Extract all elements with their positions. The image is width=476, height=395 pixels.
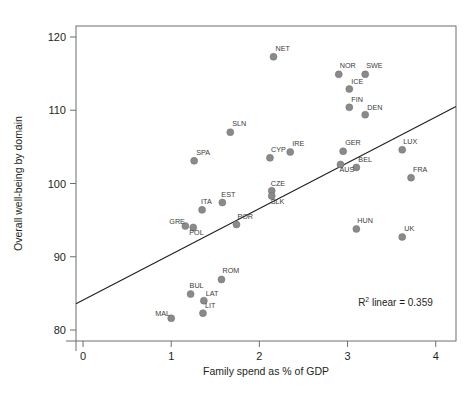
y-tick-label-110: 110 bbox=[48, 104, 66, 116]
y-tick-label-80: 80 bbox=[54, 324, 66, 336]
data-point-ita bbox=[199, 206, 206, 213]
data-point-spa bbox=[191, 157, 198, 164]
data-label-bel: BEL bbox=[358, 155, 372, 164]
data-label-cze: CZE bbox=[271, 179, 286, 188]
data-label-spa: SPA bbox=[196, 148, 210, 157]
data-point-est bbox=[219, 199, 226, 206]
data-label-ire: IRE bbox=[292, 139, 304, 148]
data-point-fin bbox=[346, 104, 353, 111]
data-point-ger bbox=[340, 148, 347, 155]
data-label-gre: GRE bbox=[169, 217, 185, 226]
y-tick-label-100: 100 bbox=[48, 178, 66, 190]
data-label-slk: SLK bbox=[271, 197, 285, 206]
r2-suffix: linear = 0.359 bbox=[369, 297, 433, 308]
y-tick-label-90: 90 bbox=[54, 251, 66, 263]
data-label-lit: LIT bbox=[205, 301, 216, 310]
data-label-uk: UK bbox=[404, 224, 414, 233]
data-point-net bbox=[270, 53, 277, 60]
x-tick-label-4: 4 bbox=[433, 350, 439, 362]
data-point-nor bbox=[335, 71, 342, 78]
data-label-swe: SWE bbox=[366, 61, 383, 70]
axis-titles: Family spend as % of GDPOverall well-bei… bbox=[12, 116, 329, 377]
data-point-rom bbox=[218, 276, 225, 283]
r2-prefix: R bbox=[358, 297, 365, 308]
data-label-fin: FIN bbox=[351, 95, 363, 104]
data-point-labels: NETNORSWEICEFINDENSLNIRECYPGERLUXSPABELA… bbox=[155, 44, 427, 319]
data-point-sln bbox=[227, 129, 234, 136]
data-label-lat: LAT bbox=[206, 289, 219, 298]
data-label-aus: AUS bbox=[340, 165, 355, 174]
linear-fit-line bbox=[76, 107, 456, 304]
scatter-chart: 809010011012001234 NETNORSWEICEFINDENSLN… bbox=[0, 0, 476, 395]
data-point-cyp bbox=[266, 154, 273, 161]
data-point-den bbox=[362, 111, 369, 118]
data-points bbox=[168, 53, 415, 322]
x-tick-label-1: 1 bbox=[168, 350, 174, 362]
plot-svg: 809010011012001234 NETNORSWEICEFINDENSLN… bbox=[0, 0, 476, 395]
data-label-ita: ITA bbox=[201, 197, 212, 206]
r2-annotation: R2 linear = 0.359 bbox=[358, 296, 433, 307]
y-axis-title: Overall well-being by domain bbox=[12, 116, 24, 251]
x-axis-title: Family spend as % of GDP bbox=[203, 365, 329, 377]
data-point-hun bbox=[353, 225, 360, 232]
y-tick-label-120: 120 bbox=[48, 31, 66, 43]
data-point-fra bbox=[408, 174, 415, 181]
data-label-hun: HUN bbox=[357, 216, 373, 225]
data-point-lux bbox=[399, 146, 406, 153]
data-point-ice bbox=[346, 86, 353, 93]
tick-labels: 809010011012001234 bbox=[48, 31, 439, 362]
data-label-ice: ICE bbox=[351, 77, 363, 86]
data-label-den: DEN bbox=[367, 103, 382, 112]
data-label-rom: ROM bbox=[222, 266, 239, 275]
data-label-net: NET bbox=[275, 44, 290, 53]
chart-annotations: R2 linear = 0.359 bbox=[358, 296, 433, 307]
data-point-ire bbox=[287, 149, 294, 156]
data-label-bul: BUL bbox=[190, 281, 204, 290]
regression-line bbox=[76, 107, 456, 304]
data-label-fra: FRA bbox=[413, 165, 428, 174]
data-point-por bbox=[233, 221, 240, 228]
data-point-lit bbox=[199, 310, 206, 317]
plot-border bbox=[76, 26, 456, 341]
data-point-uk bbox=[399, 233, 406, 240]
data-label-sln: SLN bbox=[232, 119, 246, 128]
data-label-nor: NOR bbox=[340, 61, 356, 70]
x-tick-label-2: 2 bbox=[256, 350, 262, 362]
data-label-pol: POL bbox=[189, 228, 203, 237]
data-label-por: POR bbox=[237, 212, 253, 221]
x-tick-label-0: 0 bbox=[80, 350, 86, 362]
x-tick-label-3: 3 bbox=[344, 350, 350, 362]
data-label-est: EST bbox=[221, 190, 236, 199]
data-label-lux: LUX bbox=[403, 137, 417, 146]
data-label-mal: MAL bbox=[155, 309, 170, 318]
data-point-bul bbox=[187, 291, 194, 298]
data-label-ger: GER bbox=[345, 138, 361, 147]
data-label-cyp: CYP bbox=[271, 145, 286, 154]
